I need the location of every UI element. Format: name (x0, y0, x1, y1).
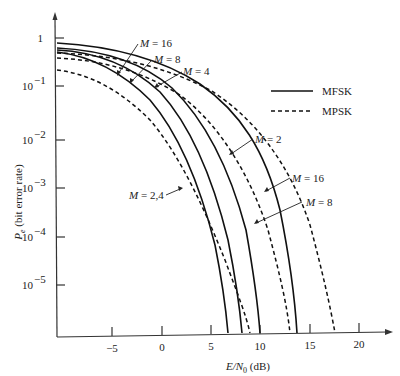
x-tick-label: 10 (255, 340, 267, 352)
y-tick-label: 1 (38, 32, 44, 44)
x-axis-arrow-icon (385, 329, 393, 335)
y-axis-title: Pe (bit error rate) (12, 164, 27, 241)
annotation-m8-right: M = 8 (305, 196, 333, 208)
y-tick-exp: −4 (34, 225, 46, 237)
y-tick-label: 10 (22, 279, 34, 291)
y-tick-exp: −2 (34, 128, 46, 140)
y-tick-label: 10 (22, 134, 34, 146)
mfsk-curves (57, 43, 297, 333)
y-axis (55, 16, 57, 337)
y-tick-exp: −1 (34, 74, 46, 86)
ber-chart: 1 10 −1 10 −2 10 −3 10 −4 10 −5 −5 0 5 1… (0, 0, 400, 376)
y-axis-arrow-icon (53, 12, 58, 20)
legend-label-mpsk: MPSK (322, 105, 352, 117)
x-ticks: −5 0 5 10 15 20 (106, 323, 365, 354)
annotation-m4-top: M = 4 (182, 65, 210, 77)
x-axis-title: E/N0 (dB) (225, 360, 270, 375)
annotation-m16-top: M = 16 (139, 37, 172, 49)
x-tick-label: 20 (354, 338, 366, 350)
y-tick-label: 10 (22, 80, 34, 92)
annotation-m2: M = 2 (254, 133, 281, 145)
x-tick-label: 0 (159, 341, 165, 353)
annotation-m8-top: M = 8 (153, 53, 181, 65)
annotations: M = 16 M = 8 M = 4 M = 2 M = 16 M = 8 M … (117, 37, 333, 224)
annotation-m16-right: M = 16 (291, 172, 324, 184)
annotation-m24: M = 2,4 (128, 189, 164, 201)
x-axis (57, 332, 388, 337)
curve-mfsk-m2 (57, 43, 297, 333)
x-tick-label: 5 (208, 340, 214, 352)
legend-label-mfsk: MFSK (322, 85, 352, 97)
x-tick-label: 15 (305, 339, 317, 351)
y-tick-exp: −3 (34, 176, 46, 188)
y-tick-exp: −5 (34, 273, 46, 285)
legend: MFSK MPSK (271, 85, 352, 117)
x-tick-label: −5 (106, 342, 118, 354)
curve-mpsk-m24 (57, 70, 250, 333)
